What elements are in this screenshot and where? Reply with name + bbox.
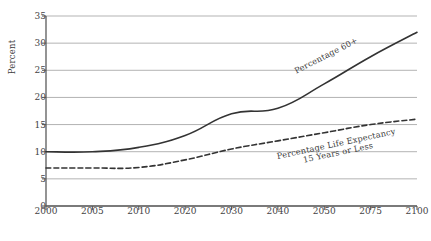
x-tick-label: 2040: [266, 206, 289, 216]
x-tick-label: 2020: [174, 206, 197, 216]
x-tick-label: 2030: [220, 206, 243, 216]
x-axis-tick-labels: 200020052010202020302040205020752100: [0, 206, 431, 226]
plot-area: [0, 0, 431, 241]
x-tick-label: 2100: [406, 206, 429, 216]
axis-lines: [46, 16, 417, 206]
gridlines: [46, 16, 417, 206]
chart-container: Percent 05101520253035 20002005201020202…: [0, 0, 431, 241]
x-tick-label: 2075: [359, 206, 382, 216]
x-tick-label: 2050: [313, 206, 336, 216]
x-tick-label: 2000: [35, 206, 58, 216]
x-tick-label: 2010: [127, 206, 150, 216]
x-tick-label: 2005: [81, 206, 104, 216]
